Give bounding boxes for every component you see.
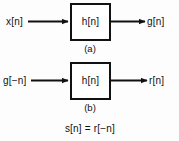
result-equation: s[n] = r[−n] xyxy=(20,124,160,134)
block-diagram-figure: x[n] h[n] g[n] (a) g[−n] h[n] r[n] (b) s… xyxy=(0,0,179,141)
system-block-b-label: h[n] xyxy=(82,76,99,86)
signal-label-output-b: r[n] xyxy=(149,76,164,86)
caption-a: (a) xyxy=(62,44,118,54)
signal-label-input-a: x[n] xyxy=(6,17,23,27)
signal-label-output-a: g[n] xyxy=(147,17,164,27)
system-block-a: h[n] xyxy=(70,3,111,41)
signal-label-input-b: g[−n] xyxy=(3,76,27,86)
caption-b: (b) xyxy=(62,103,118,113)
system-block-a-label: h[n] xyxy=(82,17,99,27)
system-block-b: h[n] xyxy=(70,62,111,100)
